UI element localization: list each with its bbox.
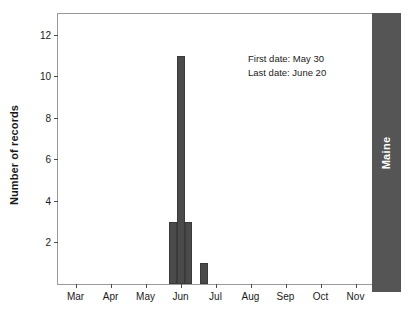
x-tick-mark (286, 284, 287, 288)
x-tick-mark (356, 284, 357, 288)
y-tick-label: 12 (40, 29, 51, 40)
x-tick-mark (76, 284, 77, 288)
y-tick-mark (54, 76, 58, 77)
region-label-strip: Maine (372, 13, 401, 292)
bar (169, 222, 177, 284)
y-tick-label: 4 (45, 195, 51, 206)
x-tick-mark (321, 284, 322, 288)
bar (185, 222, 193, 284)
y-tick-mark (54, 201, 58, 202)
x-tick-mark (111, 284, 112, 288)
y-tick-label: 6 (45, 154, 51, 165)
x-tick-label: Nov (347, 291, 365, 302)
x-tick-label: Jul (209, 291, 222, 302)
y-axis-title: Number of records (4, 90, 24, 220)
x-tick-label: Sep (277, 291, 295, 302)
y-tick-label: 8 (45, 112, 51, 123)
x-tick-mark (216, 284, 217, 288)
x-tick-mark (181, 284, 182, 288)
x-tick-label: Aug (242, 291, 260, 302)
first-date-text: First date: May 30 (248, 52, 326, 66)
histogram-figure: Number of records 24681012 MarAprMayJunJ… (0, 0, 414, 320)
region-label-text: Maine (381, 136, 393, 169)
y-tick-mark (54, 242, 58, 243)
last-date-text: Last date: June 20 (248, 66, 326, 80)
y-tick-mark (54, 118, 58, 119)
y-tick-label: 2 (45, 237, 51, 248)
x-tick-label: Oct (313, 291, 329, 302)
y-tick-label: 10 (40, 71, 51, 82)
bar (177, 56, 185, 284)
x-tick-mark (146, 284, 147, 288)
y-tick-mark (54, 35, 58, 36)
date-range-annotation: First date: May 30 Last date: June 20 (248, 52, 326, 80)
bar (200, 263, 208, 284)
x-tick-label: Mar (67, 291, 84, 302)
x-tick-label: May (136, 291, 155, 302)
y-axis-title-text: Number of records (8, 105, 20, 205)
y-tick-mark (54, 159, 58, 160)
x-tick-label: Jun (172, 291, 188, 302)
x-tick-mark (251, 284, 252, 288)
x-tick-label: Apr (103, 291, 119, 302)
